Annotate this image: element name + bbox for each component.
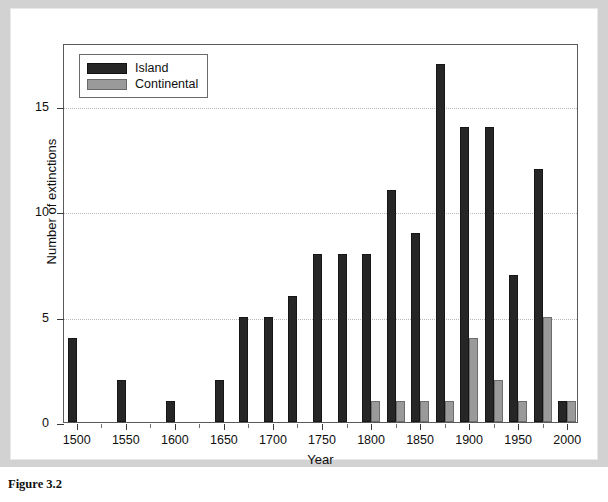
bar-island-1975 [534,169,543,422]
x-tick-1850 [420,424,421,430]
x-tick-1650 [224,424,225,430]
x-tick-minor-1825 [396,424,397,428]
x-tick-label-1850: 1850 [395,433,445,447]
bar-group [166,43,184,422]
x-tick-1550 [126,424,127,430]
bar-group [288,43,306,422]
bar-group [338,43,356,422]
x-tick-label-1700: 1700 [248,433,298,447]
bar-island-1900 [460,127,469,422]
legend-label-island: Island [135,61,168,75]
bar-island-1500 [68,338,77,422]
y-tick-10 [57,213,64,214]
bar-island-1950 [509,275,518,422]
bar-group [215,43,233,422]
legend-entry-island: Island [87,60,198,76]
bar-island-1875 [436,64,445,422]
x-tick-label-1800: 1800 [346,433,396,447]
bar-continental-2000 [567,401,576,422]
bar-group [534,43,552,422]
bar-continental-1800 [371,401,380,422]
chart-legend: Island Continental [79,54,208,98]
x-tick-1800 [371,424,372,430]
bar-island-1650 [215,380,224,422]
x-tick-2000 [567,424,568,430]
bar-group [190,43,208,422]
x-tick-label-1950: 1950 [493,433,543,447]
x-tick-minor-1975 [543,424,544,428]
figure-caption: Figure 3.2 [8,477,62,492]
x-tick-minor-1675 [248,424,249,428]
bar-island-1775 [338,254,347,422]
x-tick-label-2000: 2000 [542,433,592,447]
y-tick-label-0: 0 [19,416,49,430]
x-tick-label-1500: 1500 [52,433,102,447]
plot-area: 051015 150015501600165017001750180018501… [63,44,578,423]
y-tick-5 [57,319,64,320]
bar-group [239,43,257,422]
bar-continental-1900 [469,338,478,422]
bar-group [68,43,86,422]
x-tick-minor-1725 [297,424,298,428]
x-tick-1900 [469,424,470,430]
bar-group [362,43,380,422]
y-tick-label-10: 10 [19,205,49,219]
bar-group [313,43,331,422]
x-tick-1500 [77,424,78,430]
figure-page: Number of extinctions 051015 15001550160… [0,0,608,502]
x-tick-minor-1875 [445,424,446,428]
x-axis-title: Year [63,452,578,467]
bar-group [485,43,503,422]
bar-continental-1950 [518,401,527,422]
bar-island-1725 [288,296,297,422]
bar-island-1675 [239,317,248,422]
bar-group [509,43,527,422]
y-tick-15 [57,108,64,109]
bar-continental-1825 [396,401,405,422]
bar-island-2000 [558,401,567,422]
bar-group [558,43,576,422]
bar-continental-1850 [420,401,429,422]
bar-island-1700 [264,317,273,422]
bar-group [387,43,405,422]
y-tick-0 [57,424,64,425]
plot-inner [64,45,577,422]
bar-island-1925 [485,127,494,422]
legend-label-continental: Continental [135,77,198,91]
island-swatch-icon [87,63,127,74]
bar-continental-1975 [543,317,552,422]
bar-continental-1925 [494,380,503,422]
bar-group [436,43,454,422]
x-tick-label-1600: 1600 [150,433,200,447]
bar-island-1750 [313,254,322,422]
x-tick-minor-1775 [347,424,348,428]
x-tick-1600 [175,424,176,430]
bar-group [92,43,110,422]
x-tick-minor-1575 [150,424,151,428]
bar-group [141,43,159,422]
x-tick-label-1550: 1550 [101,433,151,447]
x-tick-1700 [273,424,274,430]
y-tick-label-5: 5 [19,311,49,325]
x-tick-1950 [518,424,519,430]
x-tick-minor-1525 [101,424,102,428]
x-tick-minor-1925 [494,424,495,428]
bar-continental-1875 [445,401,454,422]
bar-island-1550 [117,380,126,422]
bar-group [460,43,478,422]
x-tick-label-1900: 1900 [444,433,494,447]
x-tick-1750 [322,424,323,430]
bar-island-1850 [411,233,420,423]
bar-group [117,43,135,422]
continental-swatch-icon [87,79,127,90]
y-tick-label-15: 15 [19,100,49,114]
x-tick-minor-1625 [199,424,200,428]
legend-entry-continental: Continental [87,76,198,92]
bar-island-1825 [387,190,396,422]
y-axis-title: Number of extinctions [44,102,59,302]
x-tick-label-1650: 1650 [199,433,249,447]
bar-island-1600 [166,401,175,422]
bars-layer [64,45,577,422]
x-tick-label-1750: 1750 [297,433,347,447]
bar-group [264,43,282,422]
